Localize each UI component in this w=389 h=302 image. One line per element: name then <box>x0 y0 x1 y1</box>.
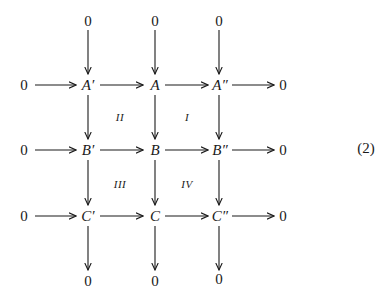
equation-number: (2) <box>357 140 375 157</box>
node-top-0-col1: 0 <box>84 14 92 29</box>
node-c-prime: C′ <box>81 209 94 224</box>
node-a: A <box>150 78 159 93</box>
node-row-c-left-0: 0 <box>20 209 28 224</box>
node-row-b-left-0: 0 <box>20 143 28 158</box>
node-a-prime: A′ <box>82 78 94 93</box>
node-top-0-col3: 0 <box>215 14 223 29</box>
region-label-iii: III <box>114 178 127 190</box>
node-b: B <box>150 143 159 158</box>
node-row-a-left-0: 0 <box>20 78 28 93</box>
node-c-dprime: C″ <box>212 209 228 224</box>
node-bottom-0-col2: 0 <box>151 274 159 289</box>
node-row-a-right-0: 0 <box>279 78 287 93</box>
region-label-ii: II <box>116 111 124 123</box>
node-b-dprime: B″ <box>212 143 227 158</box>
node-bottom-0-col3: 0 <box>215 272 223 287</box>
region-label-iv: IV <box>181 178 192 190</box>
region-label-i: I <box>185 111 189 123</box>
node-row-c-right-0: 0 <box>279 209 287 224</box>
node-a-dprime: A″ <box>212 78 227 93</box>
node-c: C <box>150 209 160 224</box>
node-b-prime: B′ <box>82 143 94 158</box>
arrows-layer <box>0 0 389 302</box>
node-top-0-col2: 0 <box>151 14 159 29</box>
node-bottom-0-col1: 0 <box>84 274 92 289</box>
node-row-b-right-0: 0 <box>279 143 287 158</box>
